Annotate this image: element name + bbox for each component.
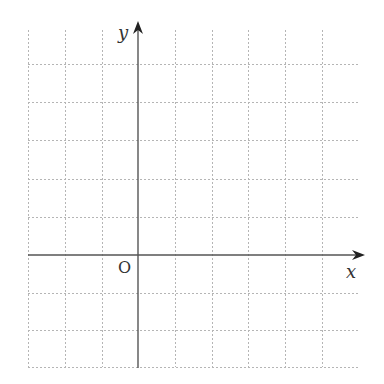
origin-label: O <box>118 260 131 276</box>
x-axis-label: x <box>346 263 356 281</box>
coordinate-plane <box>0 0 384 384</box>
axes <box>28 21 365 368</box>
y-axis-label: y <box>118 24 128 42</box>
grid-lines <box>28 30 358 368</box>
